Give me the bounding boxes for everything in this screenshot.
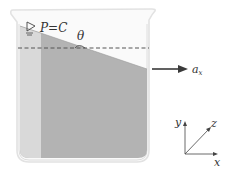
acceleration-arrow — [152, 65, 188, 73]
liquid-light-strip — [20, 26, 41, 158]
acceleration-label: ax — [192, 63, 203, 77]
diagram-canvas: θ P=C ax y z x — [0, 0, 230, 176]
pressure-label: P=C — [39, 21, 67, 35]
acceleration-subscript: x — [199, 69, 203, 77]
angle-label: θ — [77, 29, 85, 43]
axis-z-label: z — [210, 117, 217, 130]
axis-y-label: y — [174, 116, 182, 129]
axis-x-label: x — [214, 156, 221, 169]
